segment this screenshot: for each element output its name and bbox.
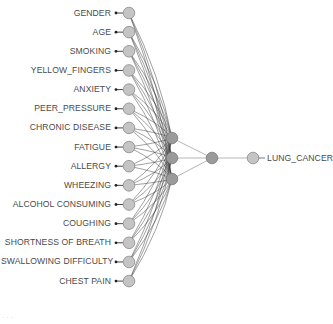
input-label: CHRONIC DISEASE (1, 122, 111, 132)
input-node (123, 65, 135, 77)
input-node (123, 180, 135, 192)
hidden-node (166, 173, 178, 185)
input-label: CHEST PAIN (1, 276, 111, 286)
hidden-node (206, 152, 218, 164)
input-label: YELLOW_FINGERS (1, 65, 111, 75)
input-label: FATIGUE (1, 142, 111, 152)
input-node (123, 256, 135, 268)
output-label: LUNG_CANCER (267, 153, 333, 163)
input-node (123, 7, 135, 19)
input-label: SMOKING (1, 46, 111, 56)
input-label: GENDER (1, 8, 111, 18)
input-node (123, 199, 135, 211)
input-node (123, 275, 135, 287)
input-node (123, 26, 135, 38)
input-label: PEER_PRESSURE (1, 103, 111, 113)
input-label: SWALLOWING DIFFICULTY (1, 256, 111, 266)
output-node (247, 152, 259, 164)
input-label: WHEEZING (1, 180, 111, 190)
input-label: SHORTNESS OF BREATH (1, 237, 111, 247)
input-label: ANXIETY (1, 84, 111, 94)
input-label: ALLERGY (1, 161, 111, 171)
input-node (123, 218, 135, 230)
input-node (123, 103, 135, 115)
hidden-node (166, 132, 178, 144)
input-node (123, 46, 135, 58)
hidden-node (166, 152, 178, 164)
input-label: COUGHING (1, 218, 111, 228)
input-node (123, 237, 135, 249)
edges (129, 13, 265, 281)
input-node (123, 84, 135, 96)
input-label: AGE (1, 27, 111, 37)
figure-caption: · · · (2, 314, 13, 321)
input-node (123, 122, 135, 134)
input-label: ALCOHOL CONSUMING (1, 199, 111, 209)
input-node (123, 160, 135, 172)
input-node (123, 141, 135, 153)
